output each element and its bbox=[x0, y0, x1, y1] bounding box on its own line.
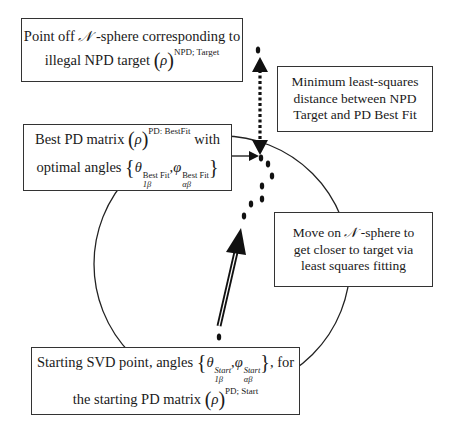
n-sphere-symbol: 𝒩 bbox=[344, 224, 357, 240]
text: Point off bbox=[24, 28, 79, 44]
text: , for bbox=[270, 354, 294, 370]
start-label-line2: the starting PD matrix (ρ)PD; Start bbox=[73, 386, 259, 412]
move-line3: least squares fitting bbox=[301, 258, 406, 275]
subscript: 1β bbox=[215, 375, 232, 384]
minimum-line2: distance between NPD bbox=[294, 91, 417, 108]
text: Best PD matrix bbox=[35, 131, 128, 147]
phi-symbol: φ bbox=[173, 159, 181, 175]
subscript: αβ bbox=[244, 375, 261, 384]
move-line2: get closer to target via bbox=[294, 242, 414, 259]
best-fit-label-box: Best PD matrix (ρ)PD: BestFit with optim… bbox=[23, 124, 232, 191]
target-label-box: Point off 𝒩 -sphere corresponding to ill… bbox=[21, 18, 243, 82]
start-label-box: Starting SVD point, angles {θStart1β,φSt… bbox=[31, 347, 300, 415]
text: Move on bbox=[293, 225, 345, 240]
move-line1: Move on 𝒩 -sphere to bbox=[293, 224, 415, 242]
text: illegal NPD target bbox=[45, 52, 154, 68]
start-label-line1: Starting SVD point, angles {θStart1β,φSt… bbox=[37, 350, 294, 384]
best-fit-label-line2: optimal angles {θBest Fit1β,φBest Fitαβ} bbox=[37, 155, 219, 189]
text: -sphere corresponding to bbox=[92, 28, 240, 44]
target-label-line1: Point off 𝒩 -sphere corresponding to bbox=[24, 27, 240, 45]
start-direction-arrow bbox=[219, 228, 246, 326]
theta-symbol: θ bbox=[135, 159, 142, 175]
rho-symbol: ρ bbox=[135, 131, 142, 147]
phi-symbol: φ bbox=[235, 354, 243, 370]
text: -sphere to bbox=[357, 225, 414, 240]
start-point bbox=[217, 333, 221, 340]
n-sphere-symbol: 𝒩 bbox=[78, 28, 92, 44]
superscript: PD: BestFit bbox=[148, 126, 190, 136]
trajectory-dots bbox=[242, 155, 274, 220]
theta-symbol: θ bbox=[206, 354, 213, 370]
text: the starting PD matrix bbox=[73, 391, 205, 407]
text: optimal angles bbox=[37, 159, 126, 175]
subscript: 1β bbox=[143, 180, 170, 189]
superscript: PD; Start bbox=[225, 386, 258, 396]
target-label-line2: illegal NPD target (ρ)NPD; Target bbox=[45, 47, 219, 73]
text: Starting SVD point, angles bbox=[37, 354, 197, 370]
best-fit-label-line1: Best PD matrix (ρ)PD: BestFit with bbox=[35, 126, 220, 152]
target-point bbox=[256, 46, 260, 53]
minimum-distance-label-box: Minimum least-squares distance between N… bbox=[277, 66, 433, 132]
superscript: NPD; Target bbox=[174, 47, 219, 57]
minimum-line1: Minimum least-squares bbox=[291, 74, 418, 91]
best-fit-pointer-arrow bbox=[232, 151, 259, 161]
subscript: αβ bbox=[182, 180, 209, 189]
distance-arrow bbox=[252, 57, 268, 155]
move-on-sphere-label-box: Move on 𝒩 -sphere to get closer to targe… bbox=[274, 212, 433, 287]
text: with bbox=[191, 131, 220, 147]
minimum-line3: Target and PD Best Fit bbox=[293, 107, 416, 124]
